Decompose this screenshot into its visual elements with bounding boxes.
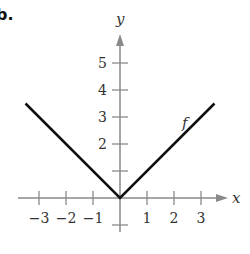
x-tick-label: 1: [143, 210, 152, 226]
x-tick-label: −1: [83, 210, 104, 226]
x-tick-label: −2: [56, 210, 77, 226]
y-tick-label: 5: [98, 55, 107, 71]
y-tick-label: 3: [98, 109, 107, 125]
y-tick-label: 2: [98, 136, 107, 152]
y-axis-label: y: [115, 10, 125, 28]
labels: −3−2−11232345xyf: [29, 10, 241, 226]
x-axis-label: x: [232, 189, 241, 207]
y-tick-label: 4: [98, 82, 107, 98]
x-tick-label: −3: [29, 210, 50, 226]
y-axis-arrow-icon: [116, 34, 124, 46]
part-label: b.: [0, 5, 14, 24]
chart: b. −3−2−11232345xyf: [0, 0, 250, 254]
x-tick-label: 2: [170, 210, 179, 226]
axes: [18, 34, 228, 232]
x-axis-arrow-icon: [216, 194, 228, 202]
x-tick-label: 3: [197, 210, 206, 226]
